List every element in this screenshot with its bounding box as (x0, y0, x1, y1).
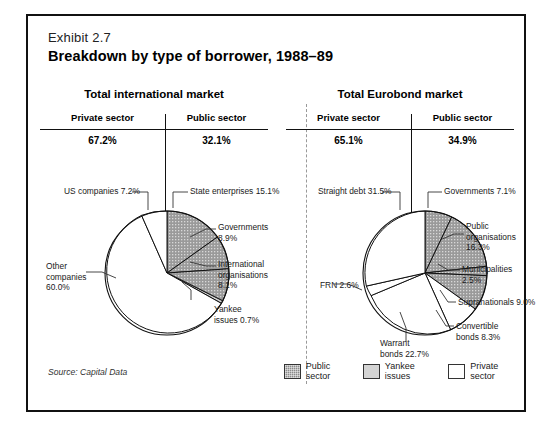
label-straight-debt: Straight debt 31.5% (318, 186, 392, 197)
legend-label: Private sector (470, 361, 524, 381)
market-title: Total international market (40, 88, 268, 100)
label-governments: Governments 7.1% (444, 186, 516, 197)
label-supranationals: Supranationals 9.0% (458, 297, 535, 308)
label-other-companies: Othercompanies60.0% (46, 261, 87, 293)
legend-item-yankee-issues: Yankee issues (363, 361, 441, 381)
legend-label: Yankee issues (385, 361, 442, 381)
legend: Public sector Yankee issues Private sect… (284, 361, 524, 381)
label-state-enterprises: State enterprises 15.1% (190, 186, 279, 197)
label-governments: Governments8.9% (218, 222, 268, 243)
label-international-organisations: Internationalorganisations8.1% (218, 259, 268, 291)
exhibit-title: Breakdown by type of borrower, 1988–89 (48, 48, 333, 64)
label-us-companies: US companies 7.2% (64, 186, 140, 197)
label-convertible-bonds: Convertiblebonds 8.3% (456, 321, 500, 342)
label-public-organisations: Publicorganisations16.3% (466, 221, 516, 253)
label-warrant-bonds: Warrantbonds 22.7% (380, 338, 429, 359)
label-yankee-issues: Yankeeissues 0.7% (214, 304, 259, 325)
exhibit-number: Exhibit 2.7 (48, 30, 111, 45)
source-note: Source: Capital Data (48, 367, 127, 377)
legend-item-private-sector: Private sector (448, 361, 524, 381)
swatch-private-sector-icon (448, 364, 465, 379)
legend-item-public-sector: Public sector (284, 361, 356, 381)
swatch-public-sector-icon (284, 364, 301, 379)
swatch-yankee-issues-icon (363, 364, 380, 379)
market-title: Total Eurobond market (286, 88, 514, 100)
label-municipalities: Municipalities2.5% (462, 264, 512, 285)
legend-label: Public sector (306, 361, 356, 381)
label-frn: FRN 2.6% (320, 280, 359, 291)
exhibit-frame: Exhibit 2.7 Breakdown by type of borrowe… (26, 14, 526, 412)
